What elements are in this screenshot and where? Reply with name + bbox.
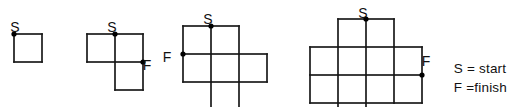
polyomino-figure-canvas: SSFSFSF: [0, 0, 511, 107]
finish-point-marker: [180, 51, 185, 56]
finish-label: F: [143, 57, 152, 73]
finish-label: F: [163, 49, 172, 65]
start-label: S: [10, 19, 19, 35]
start-label: S: [358, 5, 367, 21]
legend-start-line: S = start: [454, 59, 507, 78]
shape-2-l-tromino: SF: [87, 19, 151, 90]
finish-point-marker: [419, 72, 424, 77]
shape-3-six-cell-cross: SF: [163, 11, 267, 107]
finish-label: F: [422, 53, 431, 69]
legend-finish-line: F =finish: [454, 78, 507, 97]
legend: S = start F =finish: [454, 59, 507, 97]
start-label: S: [107, 19, 116, 35]
shape-1-single-square: S: [10, 19, 42, 62]
shape-4-eleven-cell-cross: SF: [310, 5, 430, 107]
start-label: S: [203, 11, 212, 27]
